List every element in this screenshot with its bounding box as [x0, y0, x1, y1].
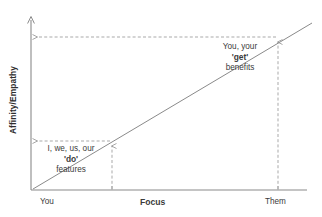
high-annotation-line3: benefits	[204, 63, 276, 72]
low-annotation: I, we, us, our 'do' features	[36, 144, 106, 174]
high-annotation: You, your 'get' benefits	[204, 42, 276, 72]
high-annotation-line2: 'get'	[204, 52, 276, 62]
x-axis-title: Focus	[140, 197, 165, 207]
chart-canvas	[0, 0, 322, 217]
y-axis-title: Affinity/Empathy	[8, 55, 18, 145]
high-annotation-line1: You, your	[204, 42, 276, 51]
affinity-focus-chart: Affinity/Empathy You Focus Them I, we, u…	[0, 0, 322, 217]
low-annotation-line1: I, we, us, our	[36, 144, 106, 153]
x-tick-label-them: Them	[265, 197, 286, 207]
x-tick-label-you: You	[40, 197, 54, 207]
low-annotation-line2: 'do'	[36, 154, 106, 164]
low-annotation-line3: features	[36, 165, 106, 174]
